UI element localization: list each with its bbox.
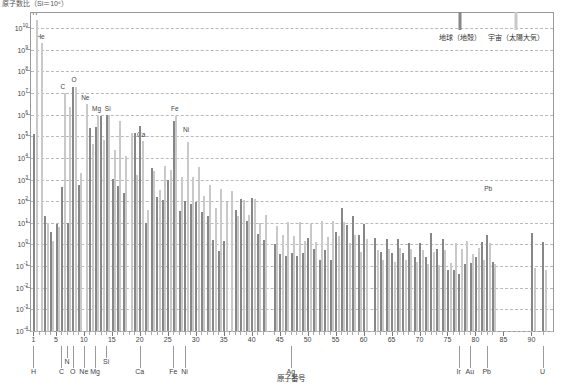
bar-earth-z8	[72, 87, 74, 331]
bar-solar-z25	[170, 170, 172, 331]
x-axis-tick-label: 80	[472, 336, 480, 343]
x-axis-minor-tick	[173, 332, 174, 335]
x-axis-tick-label: 25	[164, 336, 172, 343]
bar-solar-z73	[438, 265, 440, 331]
element-leader-line-Ir	[459, 346, 460, 368]
element-label-Mg: Mg	[90, 368, 100, 375]
bar-earth-z29	[190, 204, 192, 331]
x-axis-minor-tick	[151, 332, 152, 335]
bar-solar-z71	[427, 264, 429, 331]
bar-earth-z90	[531, 233, 533, 331]
bar-earth-z14	[106, 115, 108, 331]
element-leader-line-Au	[470, 346, 471, 368]
x-axis-minor-tick	[229, 332, 230, 335]
x-axis-minor-tick	[324, 332, 325, 335]
x-axis-minor-tick	[319, 332, 320, 335]
bar-earth-z64	[386, 239, 388, 331]
bar-earth-z23	[156, 197, 158, 331]
bar-earth-z27	[179, 211, 181, 331]
x-axis-minor-tick	[45, 332, 46, 335]
bar-series-container: HHeCONeMgSiCaFeNiPb	[31, 13, 553, 331]
x-axis-tick-label: 10	[80, 336, 88, 343]
bar-earth-z20	[139, 126, 141, 332]
bar-solar-z69	[416, 262, 418, 331]
bar-solar-z62	[377, 250, 379, 331]
bar-solar-z8	[75, 87, 77, 331]
x-axis-minor-tick	[145, 332, 146, 335]
bar-solar-z39	[248, 215, 250, 331]
bar-earth-z58	[352, 216, 354, 331]
bar-solar-z24	[164, 166, 166, 331]
legend-swatch-solar	[515, 12, 518, 30]
bar-earth-z45	[279, 254, 281, 331]
x-axis-minor-tick	[207, 332, 208, 335]
bar-earth-z40	[251, 198, 253, 331]
x-axis-minor-tick	[263, 332, 264, 335]
x-axis-tick-label: 45	[276, 336, 284, 343]
x-axis-minor-tick	[459, 332, 460, 335]
bar-earth-z76	[453, 270, 455, 331]
element-leader-line-Ne	[84, 346, 85, 368]
bar-solar-z70	[422, 250, 424, 331]
bar-solar-z21	[147, 210, 149, 331]
x-axis-minor-tick	[330, 332, 331, 335]
element-leader-line-Ca	[140, 346, 141, 368]
bar-earth-z82	[486, 235, 488, 331]
bar-solar-z3	[47, 223, 49, 331]
bar-earth-z39	[246, 221, 248, 331]
element-label-Ni: Ni	[181, 368, 188, 375]
x-axis-minor-tick	[414, 332, 415, 335]
x-axis-tick-label: 1	[32, 336, 36, 343]
bar-earth-z75	[447, 270, 449, 331]
bar-solar-z40	[254, 199, 256, 331]
element-leader-line-N	[67, 346, 68, 358]
bar-solar-z36	[231, 191, 233, 331]
element-leader-line-C	[61, 346, 62, 368]
element-label-Au: Au	[466, 368, 475, 375]
bar-earth-z37	[235, 210, 237, 331]
bar-earth-z83	[492, 262, 494, 331]
element-leader-line-Si	[106, 346, 107, 358]
peak-label-Ni: Ni	[183, 126, 189, 133]
bar-solar-z66	[399, 248, 401, 331]
element-leader-line-H	[33, 346, 34, 368]
bar-solar-z55	[338, 236, 340, 331]
bar-solar-z38	[243, 200, 245, 331]
bar-earth-z19	[134, 133, 136, 331]
element-leader-line-Mg	[95, 346, 96, 368]
x-axis-minor-tick	[257, 332, 258, 335]
bar-earth-z74	[442, 239, 444, 331]
x-axis-minor-tick	[190, 332, 191, 335]
bar-earth-z77	[458, 274, 460, 331]
peak-label-Mg: Mg	[92, 105, 101, 112]
x-axis-minor-tick	[347, 332, 348, 335]
bar-solar-z56	[343, 222, 345, 331]
peak-label-Pb: Pb	[484, 185, 492, 192]
bar-earth-z80	[475, 257, 477, 331]
bar-earth-z54	[330, 260, 332, 331]
bar-earth-z53	[324, 250, 326, 331]
bar-solar-z42	[265, 215, 267, 331]
bar-earth-z34	[218, 251, 220, 331]
x-axis-minor-tick	[73, 332, 74, 335]
x-axis-minor-tick	[302, 332, 303, 335]
x-axis-minor-tick	[95, 332, 96, 335]
x-axis-tick-label: 75	[444, 336, 452, 343]
bar-solar-z79	[472, 254, 474, 331]
bar-solar-z52	[321, 221, 323, 331]
x-axis-minor-tick	[408, 332, 409, 335]
x-axis-minor-tick	[487, 332, 488, 335]
bar-solar-z67	[405, 260, 407, 331]
bar-earth-z44	[274, 244, 276, 331]
bar-earth-z42	[263, 240, 265, 331]
bar-earth-z25	[167, 180, 169, 331]
bar-solar-z81	[483, 260, 485, 331]
x-axis-minor-tick	[123, 332, 124, 335]
bar-earth-z16	[117, 186, 119, 331]
x-axis-minor-tick	[470, 332, 471, 335]
bar-solar-z31	[203, 196, 205, 331]
element-leader-line-Ag	[291, 346, 292, 368]
bar-earth-z47	[291, 253, 293, 331]
bar-earth-z28	[184, 201, 186, 331]
x-axis-tick-label: 30	[192, 336, 200, 343]
